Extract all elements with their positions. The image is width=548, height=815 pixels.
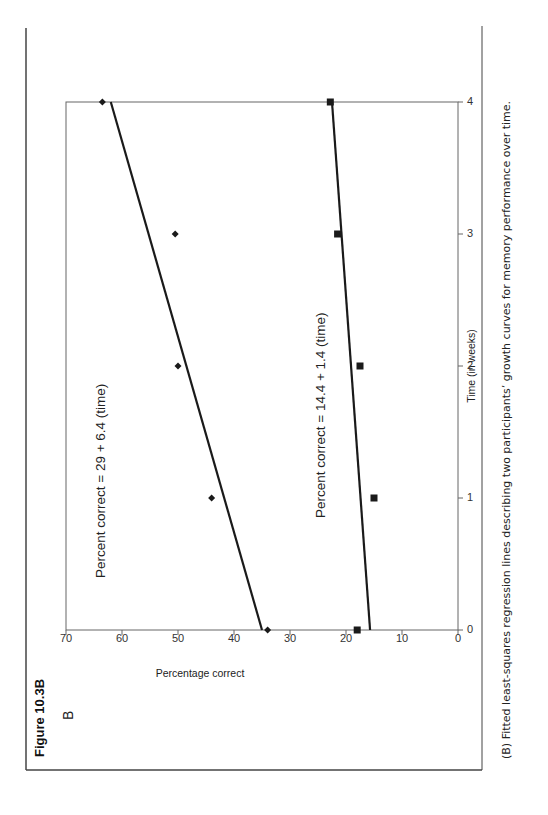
square-marker xyxy=(357,363,364,370)
y-axis-label: Percentage correct xyxy=(156,667,245,679)
diamond-marker xyxy=(175,363,182,370)
equation-participant-1: Percent correct = 29 + 6.4 (time) xyxy=(93,384,108,578)
figure-svg: Figure 10.3B B 010203040506070 01234 Per… xyxy=(0,0,548,815)
rotated-page: Figure 10.3B B 010203040506070 01234 Per… xyxy=(0,0,548,815)
diamond-marker xyxy=(264,627,271,634)
x-tick-label: 0 xyxy=(467,623,473,635)
diamond-marker xyxy=(172,231,179,238)
y-tick-label: 20 xyxy=(340,632,352,644)
plot-frame xyxy=(66,102,458,630)
y-tick-label: 40 xyxy=(228,632,240,644)
x-tick-label: 3 xyxy=(467,227,473,239)
y-axis: 010203040506070 xyxy=(60,630,461,644)
square-marker xyxy=(371,495,378,502)
x-tick-label: 4 xyxy=(467,95,473,107)
regression-line-1 xyxy=(111,102,262,630)
regression-lines xyxy=(111,102,370,630)
plot-area: 010203040506070 01234 Percent correct = … xyxy=(60,95,473,644)
y-tick-label: 10 xyxy=(396,632,408,644)
regression-line-2 xyxy=(332,102,370,630)
y-tick-label: 70 xyxy=(60,632,72,644)
figure-title: Figure 10.3B xyxy=(32,679,47,757)
panel-label: B xyxy=(60,711,76,720)
y-tick-label: 0 xyxy=(455,632,461,644)
y-tick-label: 60 xyxy=(116,632,128,644)
data-points xyxy=(99,99,378,634)
x-tick-label: 1 xyxy=(467,491,473,503)
y-tick-label: 30 xyxy=(284,632,296,644)
x-axis-label: Time (in weeks) xyxy=(465,329,477,403)
figure-caption: (B) Fitted least-squares regression line… xyxy=(500,101,513,759)
square-marker xyxy=(354,627,361,634)
diamond-marker xyxy=(208,495,215,502)
diamond-marker xyxy=(99,99,106,106)
square-marker xyxy=(334,231,341,238)
y-tick-label: 50 xyxy=(172,632,184,644)
equation-participant-2: Percent correct = 14.4 + 1.4 (time) xyxy=(313,312,328,518)
square-marker xyxy=(327,99,334,106)
equation-annotations: Percent correct = 29 + 6.4 (time)Percent… xyxy=(93,312,328,578)
